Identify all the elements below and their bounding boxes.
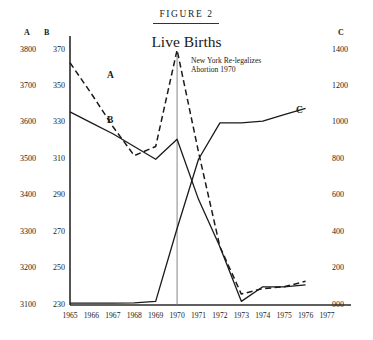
- series-paths: [70, 50, 306, 303]
- series-line-B: [70, 112, 306, 301]
- figure-container: FIGURE 2 Live Births New York Re-legaliz…: [0, 0, 373, 340]
- series-line-C: [70, 108, 306, 303]
- axis-lines: [70, 36, 351, 305]
- series-line-A: [70, 50, 306, 294]
- plot-area: [0, 0, 373, 340]
